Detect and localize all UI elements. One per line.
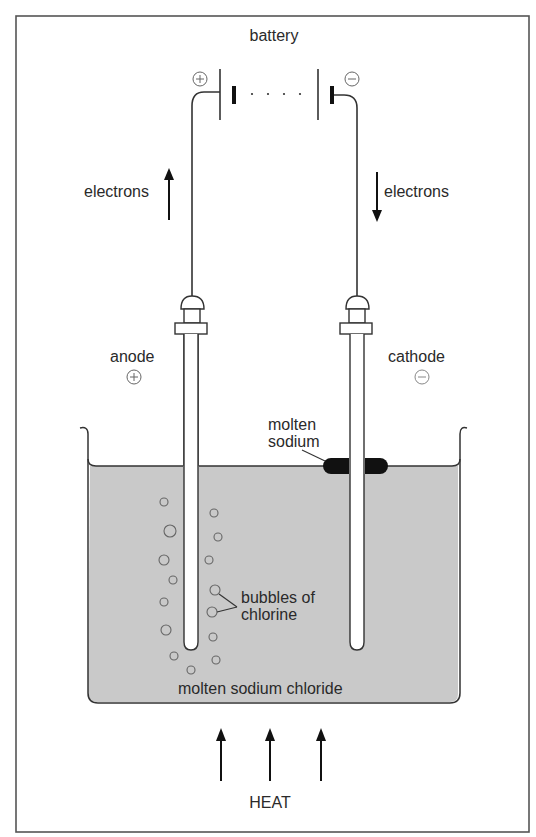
heat-label: HEAT — [249, 794, 291, 811]
electrolysis-diagram: battery electrons electrons — [0, 0, 536, 837]
electrons-left-label: electrons — [84, 183, 149, 200]
liquid-label: molten sodium chloride — [178, 680, 343, 697]
molten-sodium-chloride-liquid — [88, 466, 458, 702]
electrons-right-label: electrons — [384, 183, 449, 200]
bubbles-label-line1: bubbles of — [241, 589, 315, 606]
anode-label: anode — [110, 348, 155, 365]
battery-label: battery — [250, 27, 299, 44]
molten-sodium-label-line2: sodium — [268, 433, 320, 450]
bubbles-label-line2: chlorine — [241, 606, 297, 623]
cathode-rod — [350, 334, 364, 650]
anode-rod — [184, 334, 198, 650]
molten-sodium-label-line1: molten — [268, 416, 316, 433]
cathode-label: cathode — [388, 348, 445, 365]
